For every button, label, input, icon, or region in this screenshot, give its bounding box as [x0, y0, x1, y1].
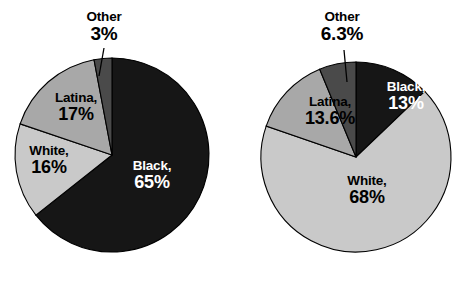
- left-label-latina: Latina, 17%: [30, 91, 122, 124]
- right-label-white-name: White,: [322, 174, 412, 188]
- left-label-black-value: 65%: [109, 173, 195, 192]
- left-label-white-value: 16%: [5, 158, 93, 177]
- right-label-black-name: Black,: [366, 80, 446, 94]
- right-label-white-value: 68%: [322, 188, 412, 207]
- left-label-other-value: 3%: [60, 24, 148, 44]
- right-label-latina: Latina, 13.6%: [280, 95, 380, 128]
- left-label-black-name: Black,: [109, 159, 195, 173]
- right-label-other-value: 6.3%: [296, 24, 388, 44]
- left-label-other: Other 3%: [60, 10, 148, 44]
- left-label-latina-value: 17%: [30, 105, 122, 124]
- right-label-white: White, 68%: [322, 174, 412, 207]
- left-label-latina-name: Latina,: [30, 91, 122, 105]
- left-label-white-name: White,: [5, 144, 93, 158]
- pie-chart-figure: Other 3% Latina, 17% White, 16% Black, 6…: [0, 0, 467, 282]
- left-label-other-name: Other: [60, 10, 148, 24]
- right-label-other-name: Other: [296, 10, 388, 24]
- right-label-latina-name: Latina,: [280, 95, 380, 109]
- right-label-other: Other 6.3%: [296, 10, 388, 44]
- right-label-latina-value: 13.6%: [280, 109, 380, 128]
- left-label-white: White, 16%: [5, 144, 93, 177]
- left-label-black: Black, 65%: [109, 159, 195, 192]
